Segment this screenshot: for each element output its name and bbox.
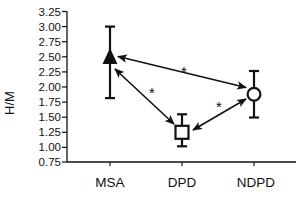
significance-arrow-dpd-ndpd: * bbox=[193, 98, 246, 130]
y-tick-label: 3.25 bbox=[39, 6, 61, 18]
significance-star: * bbox=[181, 63, 187, 80]
significance-arrow-msa-ndpd: * bbox=[118, 57, 246, 88]
significance-star: * bbox=[149, 84, 155, 101]
marker-circle-ndpd bbox=[248, 88, 261, 101]
y-tick-label: 1.25 bbox=[39, 126, 61, 138]
y-tick-label: 1.00 bbox=[39, 141, 61, 153]
y-tick-label: 0.75 bbox=[39, 156, 61, 168]
chart-container: H/M 3.25 3.00 2.75 2.50 2.25 2.00 1.75 1… bbox=[0, 0, 300, 199]
marker-square-dpd bbox=[176, 126, 189, 139]
y-tick-label: 2.50 bbox=[39, 51, 61, 63]
x-category-label-dpd: DPD bbox=[168, 175, 197, 190]
significance-star: * bbox=[216, 98, 222, 115]
y-axis-title: H/M bbox=[2, 91, 17, 115]
y-tick-label: 2.00 bbox=[39, 81, 61, 93]
h-over-m-scatter-chart: H/M 3.25 3.00 2.75 2.50 2.25 2.00 1.75 1… bbox=[0, 0, 300, 199]
marker-triangle-msa bbox=[104, 50, 117, 64]
y-tick-label: 1.75 bbox=[39, 96, 61, 108]
data-point-ndpd bbox=[248, 71, 261, 118]
y-tick-marks bbox=[62, 12, 67, 163]
y-tick-label: 1.50 bbox=[39, 111, 61, 123]
x-category-label-ndpd: NDPD bbox=[237, 175, 276, 190]
y-tick-label: 3.00 bbox=[39, 21, 61, 33]
data-point-msa bbox=[104, 27, 117, 99]
significance-arrow-msa-dpd: * bbox=[115, 69, 174, 124]
y-tick-label: 2.25 bbox=[39, 66, 61, 78]
y-tick-label: 2.75 bbox=[39, 36, 61, 48]
x-category-label-msa: MSA bbox=[95, 175, 124, 190]
data-point-dpd bbox=[176, 114, 189, 146]
